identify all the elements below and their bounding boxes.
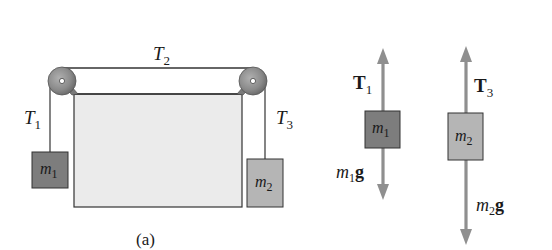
- physics-diagram: T2 T1 T3 m1 m2 (a) m1 T1 m1g m2 T3 m2g: [0, 0, 552, 250]
- free-body-diagram-m2: m2 T3 m2g: [448, 46, 504, 245]
- figure-caption: (a): [136, 230, 155, 249]
- table: [74, 94, 242, 207]
- fbd-label-t3: T3: [474, 75, 493, 100]
- down-arrow-head-icon: [377, 184, 389, 200]
- fbd-label-m1g: m1g: [336, 162, 364, 185]
- fbd-label-m2g: m2g: [476, 195, 504, 218]
- up-arrow-head-icon: [460, 46, 472, 62]
- down-arrow-head-icon: [460, 229, 472, 245]
- left-pulley: [48, 67, 76, 95]
- label-t1: T1: [24, 107, 41, 132]
- label-t2: T2: [153, 43, 170, 68]
- up-arrow-head-icon: [377, 48, 389, 64]
- label-t3: T3: [276, 107, 293, 132]
- free-body-diagram-m1: m1 T1 m1g: [336, 48, 400, 200]
- fbd-label-t1: T1: [353, 72, 372, 97]
- pulley-setup: T2 T1 T3 m1 m2 (a): [24, 43, 293, 249]
- right-pulley: [239, 67, 267, 95]
